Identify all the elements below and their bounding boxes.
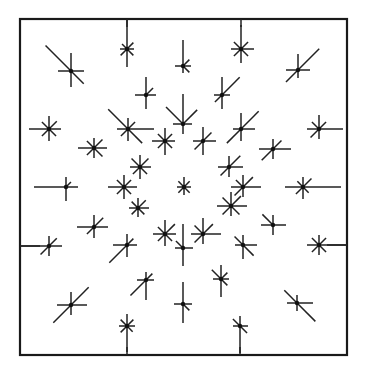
star-glyph — [285, 177, 341, 199]
star-glyph — [212, 265, 229, 297]
star-glyph — [108, 109, 154, 143]
glyph-center-dot — [138, 165, 142, 169]
star-glyph — [108, 175, 137, 199]
glyph-center-dot — [136, 206, 140, 210]
glyph-spoke-se — [243, 245, 254, 256]
star-glyph — [78, 138, 107, 158]
star-glyph — [284, 290, 315, 321]
star-glyph — [218, 156, 243, 177]
star-glyph — [46, 46, 84, 87]
glyph-center-dot — [317, 243, 321, 247]
glyph-layer — [20, 19, 347, 353]
glyph-center-dot — [182, 185, 186, 189]
glyph-spoke-nw — [262, 214, 273, 225]
glyph-center-dot — [125, 243, 129, 247]
glyph-center-dot — [181, 122, 185, 126]
star-glyph — [175, 40, 191, 73]
glyph-center-dot — [241, 243, 245, 247]
glyph-center-dot — [238, 324, 242, 328]
glyph-spoke-ne — [229, 156, 240, 167]
star-glyph-diagram — [0, 0, 365, 375]
star-glyph — [77, 215, 108, 238]
star-glyph — [307, 115, 343, 139]
star-glyph — [261, 214, 286, 235]
glyph-center-dot — [227, 165, 231, 169]
star-glyph — [259, 139, 291, 160]
glyph-center-dot — [296, 68, 300, 72]
glyph-spoke-sw — [286, 70, 298, 82]
glyph-center-dot — [295, 301, 299, 305]
glyph-center-dot — [163, 232, 167, 236]
glyph-spoke-ne — [222, 77, 240, 95]
glyph-center-dot — [239, 127, 243, 131]
star-glyph — [20, 236, 62, 256]
star-glyph — [153, 220, 176, 246]
star-glyph — [152, 128, 175, 155]
glyph-center-dot — [47, 127, 51, 131]
glyph-spoke-nw — [166, 107, 183, 124]
glyph-spoke-nw — [284, 290, 297, 303]
star-glyph — [193, 127, 216, 155]
star-glyph — [120, 19, 134, 67]
star-glyph — [29, 116, 61, 141]
glyph-center-dot — [181, 64, 185, 68]
star-glyph — [119, 314, 135, 352]
star-glyph — [53, 287, 88, 322]
star-glyph — [135, 77, 156, 109]
glyph-center-dot — [69, 303, 73, 307]
star-glyph — [109, 234, 137, 263]
glyph-spoke-ne — [71, 287, 89, 305]
star-glyph — [175, 224, 193, 266]
glyph-center-dot — [220, 93, 224, 97]
star-glyph — [191, 218, 221, 244]
glyph-center-dot — [126, 127, 130, 131]
star-glyph — [130, 155, 151, 179]
star-glyph — [233, 316, 248, 353]
glyph-spoke-se — [128, 129, 142, 143]
glyph-spoke-sw — [53, 305, 71, 323]
glyph-spoke-sw — [262, 149, 273, 160]
star-glyph — [177, 177, 191, 195]
glyph-center-dot — [229, 204, 233, 208]
star-glyph — [130, 272, 154, 300]
star-glyph — [34, 177, 78, 201]
glyph-center-dot — [271, 223, 275, 227]
star-glyph — [307, 235, 347, 255]
glyph-spoke-ne — [241, 111, 259, 129]
star-glyph — [174, 282, 192, 323]
glyph-spoke-nw — [108, 109, 128, 129]
glyph-center-dot — [122, 185, 126, 189]
glyph-center-dot — [271, 147, 275, 151]
glyph-spoke-sw — [130, 280, 146, 296]
star-glyph — [227, 111, 259, 143]
glyph-spoke-ne — [183, 110, 197, 124]
glyph-spoke-sw — [227, 129, 241, 143]
star-glyph — [235, 235, 257, 259]
star-glyph — [214, 77, 240, 109]
glyph-center-dot — [201, 139, 205, 143]
glyph-center-dot — [144, 278, 148, 282]
glyph-spoke-nw — [46, 46, 71, 71]
glyph-center-dot — [125, 47, 129, 51]
star-glyph — [286, 49, 319, 82]
glyph-center-dot — [181, 302, 185, 306]
glyph-center-dot — [219, 277, 223, 281]
glyph-center-dot — [239, 47, 243, 51]
glyph-center-dot — [201, 232, 205, 236]
star-glyph — [231, 25, 254, 63]
glyph-center-dot — [64, 185, 68, 189]
glyph-center-dot — [125, 324, 129, 328]
glyph-spoke-se — [71, 71, 84, 84]
glyph-spoke-se — [297, 303, 315, 321]
glyph-center-dot — [144, 93, 148, 97]
glyph-spoke-ne — [298, 49, 319, 70]
star-glyph — [231, 175, 261, 197]
glyph-center-dot — [301, 185, 305, 189]
glyph-center-dot — [181, 246, 185, 250]
glyph-center-dot — [92, 225, 96, 229]
glyph-center-dot — [47, 244, 51, 248]
glyph-center-dot — [69, 69, 73, 73]
glyph-center-dot — [317, 127, 321, 131]
glyph-center-dot — [92, 146, 96, 150]
glyph-center-dot — [241, 185, 245, 189]
